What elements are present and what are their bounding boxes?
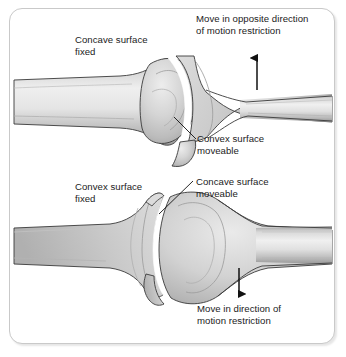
bottom-left-socket-shaft <box>14 193 164 297</box>
top-right-shaft-fill <box>240 94 332 122</box>
top-right-bone-convex-moveable <box>176 56 332 144</box>
illustration-canvas <box>0 0 346 357</box>
figure-root: Concave surface fixed Move in opposite d… <box>0 0 346 357</box>
label-convex-surface-moveable: Convex surface moveable <box>197 133 264 156</box>
bottom-right-bone-concave-moveable <box>159 192 332 304</box>
top-right-inferior-process <box>172 140 196 167</box>
label-concave-surface-fixed: Concave surface fixed <box>75 34 148 57</box>
label-concave-surface-moveable: Concave surface moveable <box>196 176 269 199</box>
label-convex-surface-fixed: Convex surface fixed <box>75 181 142 204</box>
top-left-bone-concave-fixed <box>14 58 197 145</box>
bottom-left-bone-convex-fixed <box>14 193 164 297</box>
label-move-opposite-direction: Move in opposite direction of motion res… <box>196 13 309 36</box>
label-move-in-direction: Move in direction of motion restriction <box>197 303 281 326</box>
top-joint-illustration <box>14 55 332 167</box>
bottom-joint-illustration <box>14 192 332 305</box>
